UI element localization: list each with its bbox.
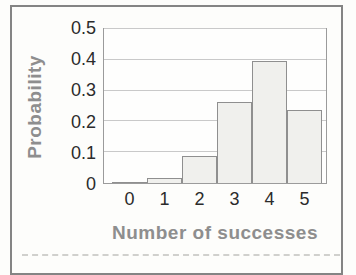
plot-area (103, 28, 327, 184)
bar-series (112, 29, 322, 183)
bar-3 (217, 102, 252, 183)
bar-0 (112, 182, 147, 183)
x-axis-ticks: 012345 (112, 189, 322, 210)
bar-1 (147, 178, 182, 183)
x-axis-title: Number of successes (103, 222, 327, 244)
bar-4 (252, 61, 287, 183)
cropped-caption-edge (22, 254, 340, 256)
x-tick-label: 2 (182, 189, 217, 210)
x-tick-label: 5 (287, 189, 322, 210)
x-tick-label: 4 (252, 189, 287, 210)
x-tick-label: 3 (217, 189, 252, 210)
x-tick-label: 0 (112, 189, 147, 210)
y-axis-title: Probability (24, 27, 46, 187)
x-tick-label: 1 (147, 189, 182, 210)
bar-5 (287, 110, 322, 183)
bar-2 (182, 156, 217, 183)
